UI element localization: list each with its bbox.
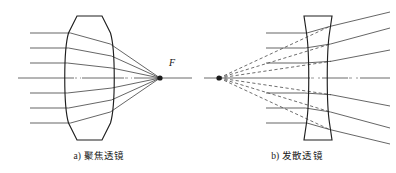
caption-a-text: a) 聚焦透镜 (73, 151, 124, 161)
focal-point-dot-a (157, 75, 162, 80)
panel-converging-lens: F a) 聚焦透镜 (0, 0, 198, 173)
focal-point-dot-b (216, 75, 221, 80)
caption-panel-b: b) 发散透镜 (198, 148, 396, 162)
caption-panel-a: a) 聚焦透镜 (0, 148, 198, 162)
panel-diverging-lens: F b) 发散透镜 (198, 0, 396, 173)
caption-b-text: b) 发散透镜 (271, 151, 323, 161)
focal-point-label-a: F (169, 57, 175, 68)
figure-root: F a) 聚焦透镜 (0, 0, 396, 173)
